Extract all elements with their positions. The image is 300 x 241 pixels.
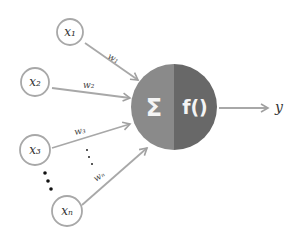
weight-label-w2: w₂ bbox=[83, 80, 95, 90]
output-label-y: y bbox=[274, 99, 284, 115]
input-node-x1: x₁ bbox=[57, 19, 83, 45]
input-label-x1: x₁ bbox=[64, 25, 76, 39]
input-node-xn: xₙ bbox=[52, 196, 82, 226]
edge-x3 bbox=[52, 124, 130, 148]
input-node-x3: x₃ bbox=[20, 135, 50, 165]
input-label-x3: x₃ bbox=[29, 143, 41, 157]
input-ellipsis bbox=[43, 171, 53, 191]
weight-label-w3: w₃ bbox=[73, 125, 87, 137]
weight-label-wn: wₙ bbox=[91, 169, 106, 184]
input-label-x2: x₂ bbox=[29, 75, 41, 89]
input-node-x2: x₂ bbox=[21, 68, 49, 96]
input-label-xn: xₙ bbox=[61, 204, 73, 218]
weight-label-w1: w₁ bbox=[106, 51, 121, 65]
neuron-diagram: w₁ w₂ w₃ wₙ x₁ x₂ x₃ xₙ Σ f() y bbox=[0, 0, 300, 241]
weight-ellipsis bbox=[86, 149, 93, 165]
neuron: Σ f() bbox=[131, 64, 217, 150]
sum-symbol: Σ bbox=[146, 94, 162, 122]
activation-function-label: f() bbox=[182, 96, 208, 118]
